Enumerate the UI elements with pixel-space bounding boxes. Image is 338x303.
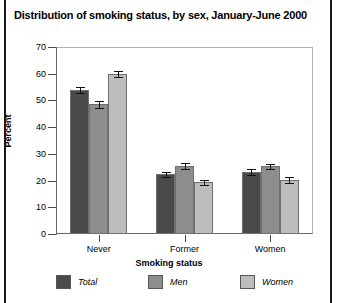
y-axis-tick — [48, 207, 56, 208]
y-axis-tick-label: 30 — [2, 149, 46, 159]
legend-swatch — [240, 275, 255, 289]
chart-title: Distribution of smoking status, by sex, … — [14, 9, 307, 21]
y-axis-tick — [48, 47, 56, 48]
plot-area — [56, 47, 313, 234]
legend-item: Total — [56, 275, 97, 289]
y-axis-tick — [48, 74, 56, 75]
y-axis-tick-label: 60 — [2, 69, 46, 79]
y-axis-tick — [48, 181, 56, 182]
y-axis-tick-label: 20 — [2, 176, 46, 186]
x-axis-tick-label: Former — [170, 244, 199, 254]
y-axis-tick — [48, 234, 56, 235]
legend-label: Total — [78, 277, 97, 287]
legend-item: Men — [148, 275, 188, 289]
y-axis-tick-label: 70 — [2, 42, 46, 52]
y-axis-tick — [48, 154, 56, 155]
y-axis-tick — [48, 127, 56, 128]
x-axis-tick — [270, 235, 271, 242]
y-axis-tick-label: 0 — [2, 229, 46, 239]
x-axis-tick — [99, 235, 100, 242]
y-axis-line — [56, 47, 57, 235]
y-axis-title: Percent — [3, 114, 13, 147]
x-axis-tick — [185, 235, 186, 242]
x-axis-tick-label: Never — [87, 244, 111, 254]
y-axis-tick-label: 10 — [2, 202, 46, 212]
legend-swatch — [56, 275, 71, 289]
x-axis-tick-label: Women — [255, 244, 286, 254]
legend-swatch — [148, 275, 163, 289]
legend-label: Men — [170, 277, 188, 287]
y-axis-tick — [48, 100, 56, 101]
legend-label: Women — [262, 277, 293, 287]
y-axis-tick-label: 50 — [2, 95, 46, 105]
legend-item: Women — [240, 275, 293, 289]
chart-legend: TotalMenWomen — [56, 275, 313, 295]
x-axis-title: Smoking status — [0, 258, 338, 268]
